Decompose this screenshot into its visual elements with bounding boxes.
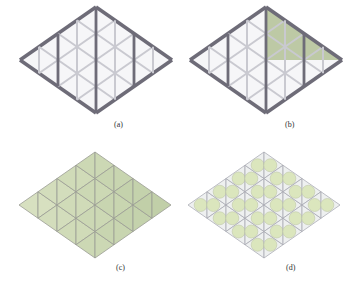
panel-d: (d) xyxy=(180,145,360,289)
panel-a: (a) xyxy=(0,0,180,145)
caption-b: (b) xyxy=(285,120,294,129)
caption-d: (d) xyxy=(286,263,295,272)
panel-cover-c xyxy=(0,145,180,289)
panel-disks-d xyxy=(180,145,360,289)
lattice-frame-b xyxy=(180,0,360,145)
caption-a: (a) xyxy=(114,120,123,129)
panel-b: (b) xyxy=(180,0,360,145)
panel-c: (c) xyxy=(0,145,180,289)
caption-c: (c) xyxy=(116,263,125,272)
lattice-frame-a xyxy=(0,0,180,145)
